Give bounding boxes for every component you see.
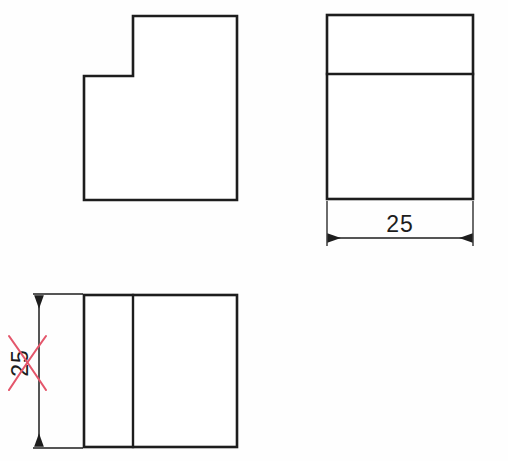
front-view-l-shape — [84, 16, 237, 200]
width-dimension-value: 25 — [386, 211, 414, 237]
front-view-outline — [84, 16, 237, 200]
top-view-outline — [84, 295, 237, 447]
drawing-canvas: 25 25 — [0, 0, 508, 461]
right-view-outline — [327, 15, 473, 199]
top-view-rectangle — [84, 295, 237, 447]
depth-dimension: 25 — [7, 294, 83, 448]
drawing-sheet: 25 25 — [0, 0, 508, 461]
width-dimension: 25 — [327, 201, 473, 246]
right-side-view-rectangle — [327, 15, 473, 199]
